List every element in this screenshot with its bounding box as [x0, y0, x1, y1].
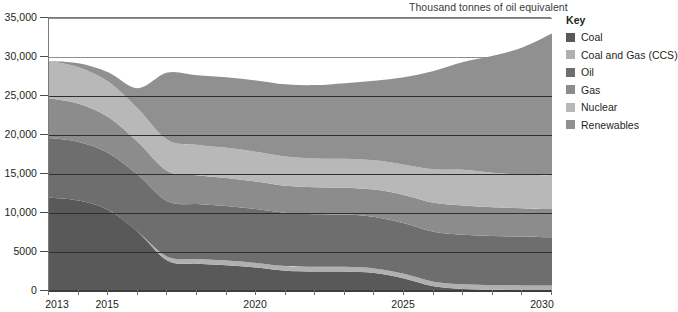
y-axis-tick-mark — [40, 17, 48, 18]
y-axis-tick-mark — [40, 212, 48, 213]
legend: Key CoalCoal and Gas (CCS)OilGasNuclearR… — [566, 14, 674, 136]
plot-svg — [49, 18, 552, 291]
x-axis-tick-mark — [166, 290, 167, 295]
y-axis-tick-label: 30,000 — [5, 50, 37, 62]
legend-swatch-icon — [566, 33, 575, 42]
x-axis-tick-label: 2015 — [95, 298, 119, 310]
x-axis-tick-mark — [137, 290, 138, 295]
x-axis-tick-mark — [462, 290, 463, 295]
x-axis-tick-label: 2025 — [391, 298, 415, 310]
legend-swatch-icon — [566, 120, 575, 129]
legend-item-coal-and-gas-ccs[interactable]: Coal and Gas (CCS) — [566, 49, 674, 61]
y-axis-tick-label: 5000 — [13, 245, 37, 257]
legend-item-label: Oil — [581, 66, 594, 78]
x-axis-tick-mark — [48, 290, 49, 295]
x-axis-tick-label: 2030 — [530, 298, 554, 310]
y-axis-tick-mark — [40, 56, 48, 57]
x-axis-tick-label: 2013 — [45, 298, 69, 310]
x-axis-tick-mark — [285, 290, 286, 295]
legend-item-label: Coal — [581, 31, 603, 43]
legend-item-label: Gas — [581, 84, 600, 96]
legend-swatch-icon — [566, 68, 575, 77]
y-axis-tick-mark — [40, 290, 48, 291]
y-axis-tick-mark — [40, 251, 48, 252]
y-axis-tick-label: 0 — [31, 284, 37, 296]
legend-title: Key — [566, 14, 674, 26]
y-axis-tick-label: 35,000 — [5, 11, 37, 23]
x-axis-tick-mark — [433, 290, 434, 295]
x-axis-tick-mark — [255, 290, 256, 295]
legend-item-label: Coal and Gas (CCS) — [581, 49, 678, 61]
x-axis-tick-mark — [314, 290, 315, 295]
legend-item-label: Nuclear — [581, 101, 617, 113]
legend-swatch-icon — [566, 85, 575, 94]
legend-item-coal[interactable]: Coal — [566, 31, 674, 43]
x-axis-line — [48, 290, 551, 292]
legend-swatch-icon — [566, 103, 575, 112]
legend-item-oil[interactable]: Oil — [566, 66, 674, 78]
x-axis-tick-mark — [373, 290, 374, 295]
y-axis-tick-label: 10,000 — [5, 206, 37, 218]
x-axis-tick-mark — [492, 290, 493, 295]
legend-item-nuclear[interactable]: Nuclear — [566, 101, 674, 113]
x-axis: 20132015202020252030 — [48, 290, 551, 312]
y-axis-tick-label: 20,000 — [5, 128, 37, 140]
y-axis: 0500010,00015,00020,00025,00030,00035,00… — [0, 0, 48, 312]
x-axis-tick-label: 2020 — [243, 298, 267, 310]
chart-unit-title: Thousand tonnes of oil equivalent — [409, 1, 568, 13]
legend-swatch-icon — [566, 50, 575, 59]
y-axis-tick-label: 25,000 — [5, 89, 37, 101]
x-axis-tick-mark — [196, 290, 197, 295]
legend-item-label: Renewables — [581, 119, 639, 131]
y-axis-tick-mark — [40, 95, 48, 96]
y-axis-tick-mark — [40, 134, 48, 135]
x-axis-tick-mark — [344, 290, 345, 295]
legend-rows: CoalCoal and Gas (CCS)OilGasNuclearRenew… — [566, 31, 674, 131]
x-axis-tick-mark — [226, 290, 227, 295]
x-axis-tick-mark — [107, 290, 108, 295]
legend-item-renewables[interactable]: Renewables — [566, 119, 674, 131]
plot-area — [48, 17, 551, 290]
x-axis-tick-mark — [551, 290, 552, 295]
y-axis-tick-mark — [40, 173, 48, 174]
y-axis-tick-label: 15,000 — [5, 167, 37, 179]
x-axis-tick-mark — [521, 290, 522, 295]
x-axis-tick-mark — [403, 290, 404, 295]
legend-item-gas[interactable]: Gas — [566, 84, 674, 96]
x-axis-tick-mark — [78, 290, 79, 295]
